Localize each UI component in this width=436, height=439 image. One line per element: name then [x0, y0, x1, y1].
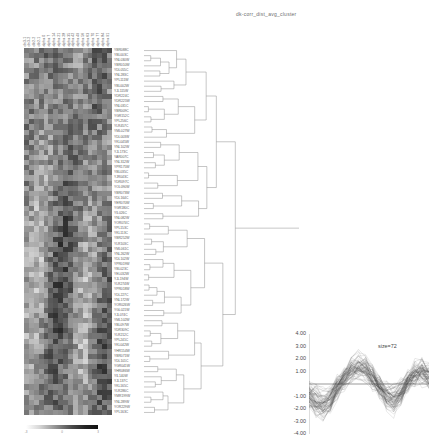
dendrogram-branch [144, 260, 163, 268]
row-label: YPL111W [114, 79, 128, 82]
page-title: dk-corr_dist_avg_cluster [236, 11, 296, 17]
column-header: alpha 70 [92, 33, 96, 47]
dendrogram-branch [144, 142, 161, 147]
row-label: YER070W [114, 202, 129, 205]
column-header: alpha 21 [58, 33, 62, 47]
dendrogram-branch [144, 71, 160, 76]
dendrogram-branch [144, 397, 151, 402]
row-label: YKL042W [114, 344, 129, 347]
dendrogram-branch [144, 382, 155, 387]
heatmap-row[interactable] [24, 410, 112, 415]
column-header: alpha 28 [63, 33, 67, 47]
row-label: YLR103C [114, 243, 128, 246]
scale-tick-label: -3 [25, 430, 28, 434]
profile-y-axis: 4.003.002.001.00-1.00-2.00-3.00-4.00 [282, 334, 308, 434]
row-label: YPR019W [114, 263, 129, 266]
color-scale-legend: -303 [26, 425, 102, 437]
row-label: YBL097W [114, 324, 129, 327]
dendrogram-branch [144, 58, 160, 66]
dendrogram-branch [144, 249, 156, 254]
dendrogram[interactable] [144, 48, 300, 415]
row-label: YAR007C [114, 156, 128, 159]
row-label: YLR286C [114, 390, 128, 393]
row-label: YBR252W [114, 237, 129, 240]
row-label: YOR026W [114, 304, 130, 307]
dendrogram-branch [206, 96, 216, 188]
dendrogram-branch [144, 173, 149, 178]
row-label: YBL003C [114, 54, 128, 57]
row-label: YDR309C [114, 329, 129, 332]
column-header: alpha 14 [53, 33, 57, 47]
dendrogram-branch [144, 96, 163, 101]
dendrogram-branch [155, 396, 168, 410]
dendrogram-branch [174, 59, 186, 85]
row-label: YNL289W [114, 401, 129, 404]
row-label: YDR224C [114, 95, 129, 98]
dendrogram-branch [144, 265, 150, 270]
row-label: YJL115W [114, 90, 128, 93]
row-label: YNL312W [114, 161, 129, 164]
dendrogram-branch [149, 175, 178, 185]
row-label: YJL074C [114, 314, 128, 317]
profile-y-tick-label: 3.00 [296, 344, 307, 349]
row-label: YNL102W [114, 146, 129, 149]
row-label: YKL113C [114, 232, 128, 235]
dendrogram-branch [144, 226, 168, 234]
dendrogram-branch [144, 351, 169, 359]
scale-tick-label: 0 [61, 430, 63, 434]
row-label: YHR154W [114, 350, 130, 353]
heatmap-grid[interactable] [24, 48, 112, 415]
column-header: alpha 91 [107, 33, 111, 47]
row-label: YBR009C [114, 110, 129, 113]
dendrogram-branch [163, 201, 199, 216]
dendrogram-branch [184, 343, 201, 389]
dendrogram-branch [153, 196, 181, 206]
dendrogram-branch [144, 300, 153, 305]
dendrogram-branch [144, 86, 161, 91]
row-label: YLR274W [114, 283, 129, 286]
dendrogram-branch [144, 356, 150, 361]
row-label: YBL023C [114, 268, 128, 271]
profile-y-tick-label: 4.00 [296, 331, 307, 336]
row-label: YGL021W [114, 309, 129, 312]
dendrogram-branch [168, 375, 184, 403]
dendrogram-branch [161, 145, 180, 160]
row-label: YNL030W [114, 59, 129, 62]
row-label: YLR457C [114, 125, 128, 128]
column-header: alpha 7 [48, 35, 52, 47]
row-label: YBR010W [114, 64, 129, 67]
row-label: YDL227C [114, 294, 128, 297]
row-label: YPR175W [114, 166, 129, 169]
row-label: YBR071W [114, 355, 129, 358]
row-label: YHR086W [114, 370, 130, 373]
row-label: YML061C [114, 248, 129, 251]
dendrogram-branch [198, 167, 207, 209]
dendrogram-branch [169, 331, 195, 355]
row-label: YOR074C [114, 222, 129, 225]
dendrogram-branch [163, 230, 187, 247]
dendrogram-branch [144, 117, 151, 122]
dendrogram-branch [158, 369, 177, 380]
row-label: YDL164C [114, 197, 128, 200]
dendrogram-branch [144, 275, 149, 280]
dendrogram-branch [177, 152, 198, 180]
row-label: YBR088C [114, 49, 129, 52]
dendrogram-branch [216, 142, 235, 315]
row-label: YJL194W [114, 278, 128, 281]
profile-traces [309, 334, 429, 434]
row-label: YOR229W [114, 406, 130, 409]
row-label: YPL256C [114, 120, 128, 123]
dendrogram-branch [144, 367, 158, 372]
heatmap-row-labels: YBR088CYBL003CYNL030WYBR010WYDL055CYNL28… [114, 48, 144, 415]
expression-profile-plot: 4.003.002.001.00-1.00-2.00-3.00-4.00 siz… [282, 334, 432, 434]
profile-y-tick-label: -4.00 [294, 431, 306, 436]
dendrogram-branch [144, 285, 149, 290]
row-label: YDL102W [114, 258, 129, 261]
row-label: YBR073W [114, 192, 129, 195]
row-label: YPL241C [114, 339, 128, 342]
dendrogram-branch [144, 130, 166, 138]
column-header: alpha 84 [102, 33, 106, 47]
heatmap-column-headers: cln3-1cln3-2clb2-2clb2-1alpha 0alpha 7al… [24, 25, 112, 47]
cluster-size-label: size=72 [378, 343, 397, 349]
dendrogram-branch [187, 239, 204, 288]
